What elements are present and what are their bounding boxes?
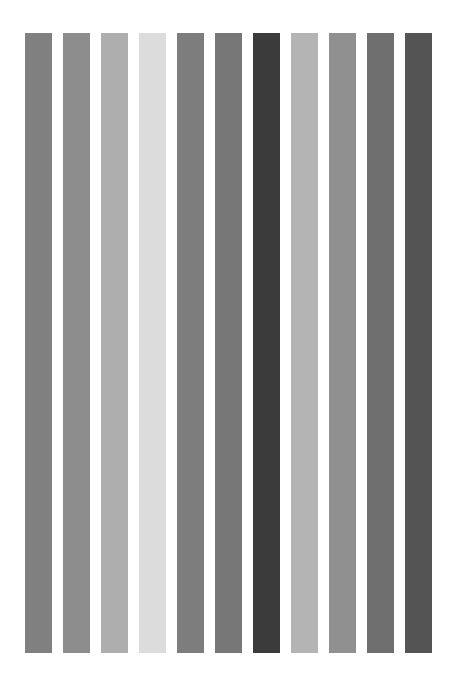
bar-9 bbox=[329, 33, 356, 653]
bar-5 bbox=[177, 33, 204, 653]
bar-6 bbox=[215, 33, 242, 653]
bar-8 bbox=[291, 33, 318, 653]
bar-1 bbox=[25, 33, 52, 653]
bar-2 bbox=[63, 33, 90, 653]
bar-7 bbox=[253, 33, 280, 653]
bar-10 bbox=[367, 33, 394, 653]
bar-11 bbox=[405, 33, 432, 653]
bar-chart bbox=[0, 0, 454, 680]
bar-4 bbox=[139, 33, 166, 653]
bar-3 bbox=[101, 33, 128, 653]
